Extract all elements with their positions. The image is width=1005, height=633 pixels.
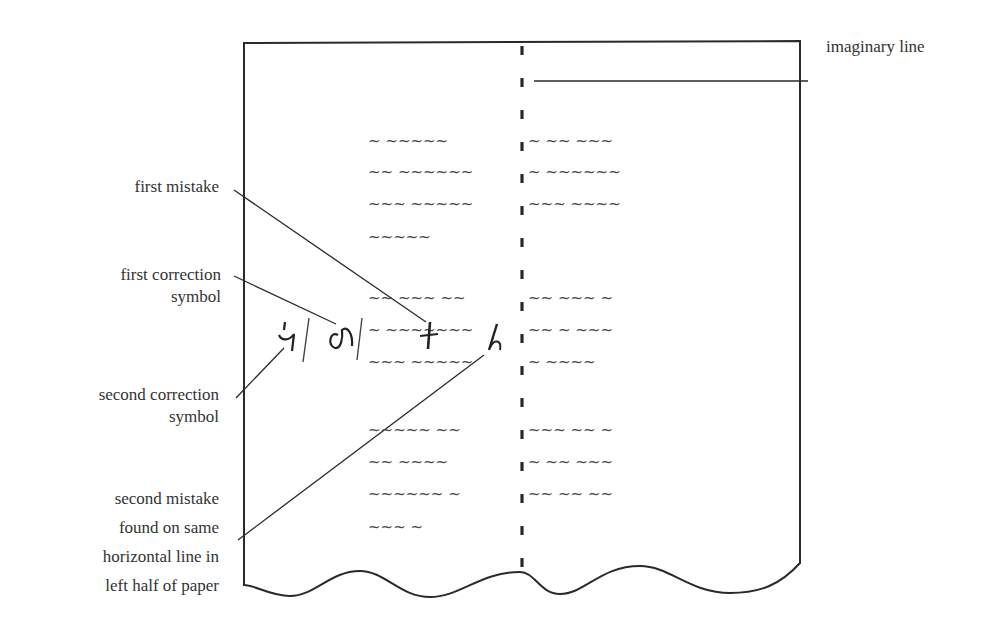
svg-text:~ ~~~~~~: ~ ~~~~~~ <box>528 163 621 181</box>
second-mistake-mark <box>489 324 500 350</box>
svg-text:~~~~~ ~~: ~~~~~ ~~ <box>368 421 461 439</box>
svg-text:~~ ~~~~~~: ~~ ~~~~~~ <box>368 163 473 181</box>
first-mistake-text: first mistake <box>134 176 219 198</box>
svg-text:~~~ ~~ ~: ~~~ ~~ ~ <box>528 421 613 439</box>
first-correction-text-line1: first correction <box>120 264 221 286</box>
second-mistake-text-line2: found on same <box>103 513 219 542</box>
svg-text:~~~~~: ~~~~~ <box>368 228 431 246</box>
margin-slash-2 <box>357 318 362 360</box>
svg-text:~ ~~ ~~~: ~ ~~ ~~~ <box>528 453 613 471</box>
second-correction-label: second correction symbol <box>99 384 219 428</box>
second-mistake-text-line1: second mistake <box>103 484 219 513</box>
imaginary-line-label: imaginary line <box>826 36 925 58</box>
svg-text:~~ ~~ ~~: ~~ ~~ ~~ <box>528 485 613 503</box>
svg-text:~~ ~ ~~~: ~~ ~ ~~~ <box>528 321 613 339</box>
paper-outline <box>244 41 800 597</box>
second-correction-text-line1: second correction <box>99 384 219 406</box>
first-mistake-label: first mistake <box>134 176 219 198</box>
svg-text:~~ ~~~~: ~~ ~~~~ <box>368 453 448 471</box>
second-mistake-text-line3: horizontal line in <box>103 542 219 571</box>
svg-text:~~ ~~~ ~~: ~~ ~~~ ~~ <box>368 289 466 307</box>
second-mistake-label: second mistake found on same horizontal … <box>103 484 219 600</box>
first-correction-leader <box>234 276 336 324</box>
svg-text:~ ~~ ~~~: ~ ~~ ~~~ <box>528 132 613 150</box>
svg-text:~~~ ~: ~~~ ~ <box>368 518 423 536</box>
first-correction-symbol <box>330 329 352 348</box>
svg-text:~ ~~~~: ~ ~~~~ <box>528 353 596 371</box>
first-correction-label: first correction symbol <box>120 264 221 308</box>
svg-text:~ ~~~~~: ~ ~~~~~ <box>368 132 448 150</box>
second-mistake-text-line4: left half of paper <box>103 571 219 600</box>
svg-text:~~~~~~ ~: ~~~~~~ ~ <box>368 485 461 503</box>
second-correction-text-line2: symbol <box>99 406 219 428</box>
svg-text:~~ ~~~ ~: ~~ ~~~ ~ <box>528 289 613 307</box>
svg-text:~~~ ~~~~: ~~~ ~~~~ <box>528 195 621 213</box>
text-rows-left: ~ ~~~~~ ~~ ~~~~~~ ~~~ ~~~~~ ~~~~~ ~~ ~~~… <box>368 132 473 536</box>
text-rows-right: ~ ~~ ~~~ ~ ~~~~~~ ~~~ ~~~~ ~~ ~~~ ~ ~~ ~… <box>528 132 621 503</box>
margin-slash-1 <box>303 318 309 362</box>
imaginary-line-text: imaginary line <box>826 36 925 58</box>
svg-text:~~~ ~~~~~: ~~~ ~~~~~ <box>368 353 473 371</box>
first-correction-text-line2: symbol <box>120 286 221 308</box>
second-mistake-leader <box>238 355 484 540</box>
second-correction-symbol <box>279 322 294 351</box>
svg-text:~~~ ~~~~~: ~~~ ~~~~~ <box>368 195 473 213</box>
